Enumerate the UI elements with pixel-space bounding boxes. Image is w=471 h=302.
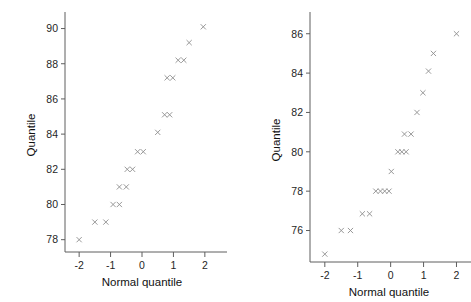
data-point-marker <box>201 24 206 29</box>
data-point-marker <box>165 75 170 80</box>
data-point-marker <box>322 252 327 257</box>
data-point-marker <box>431 51 436 56</box>
data-point-marker <box>162 112 167 117</box>
scatter-plot-left: 78808284868890-2-1012Normal quantileQuan… <box>0 0 240 302</box>
data-point-marker <box>110 202 115 207</box>
y-tick-label: 88 <box>46 58 58 70</box>
data-point-marker <box>124 184 129 189</box>
data-point-marker <box>117 202 122 207</box>
x-tick-label: -1 <box>106 259 115 271</box>
data-point-marker <box>454 31 459 36</box>
scatter-panel-right: 767880828486-2-1012Normal quantileQuanti… <box>231 0 471 302</box>
data-point-marker <box>348 228 353 233</box>
x-tick-label: 1 <box>421 269 427 281</box>
data-point-marker <box>378 189 383 194</box>
x-tick-label: 1 <box>171 259 177 271</box>
y-tick-label: 84 <box>46 128 58 140</box>
y-tick-label: 80 <box>291 146 303 158</box>
data-point-marker <box>103 219 108 224</box>
y-tick-label: 80 <box>46 198 58 210</box>
data-point-marker <box>339 228 344 233</box>
data-point-marker <box>414 110 419 115</box>
x-axis-title: Normal quantile <box>349 286 430 298</box>
y-tick-label: 76 <box>291 224 303 236</box>
x-tick-label: -2 <box>320 269 329 281</box>
y-tick-label: 82 <box>46 163 58 175</box>
x-tick-label: 2 <box>454 269 460 281</box>
data-point-marker <box>155 130 160 135</box>
data-point-marker <box>130 167 135 172</box>
data-point-marker <box>408 131 413 136</box>
x-tick-label: 0 <box>388 269 394 281</box>
data-point-marker <box>399 149 404 154</box>
data-point-marker <box>404 149 409 154</box>
data-point-group <box>322 31 459 257</box>
data-point-marker <box>402 131 407 136</box>
data-point-marker <box>176 58 181 63</box>
scatter-panel-left: 78808284868890-2-1012Normal quantileQuan… <box>0 0 240 302</box>
data-point-marker <box>367 211 372 216</box>
data-point-marker <box>426 69 431 74</box>
data-point-marker <box>77 237 82 242</box>
data-point-marker <box>360 211 365 216</box>
x-tick-label: 2 <box>202 259 208 271</box>
y-axis-title: Quantile <box>25 114 37 157</box>
y-tick-label: 86 <box>291 28 303 40</box>
y-axis-title: Quantile <box>270 119 282 162</box>
y-tick-label: 90 <box>46 22 58 34</box>
x-axis-title: Normal quantile <box>102 276 183 288</box>
x-tick-label: -2 <box>74 259 83 271</box>
data-point-marker <box>170 75 175 80</box>
data-point-marker <box>167 112 172 117</box>
data-point-marker <box>135 149 140 154</box>
scatter-plot-right: 767880828486-2-1012Normal quantileQuanti… <box>231 0 471 302</box>
y-tick-label: 78 <box>291 185 303 197</box>
qq-plot-figure: 78808284868890-2-1012Normal quantileQuan… <box>0 0 471 302</box>
data-point-marker <box>141 149 146 154</box>
data-point-marker <box>117 184 122 189</box>
data-point-marker <box>187 40 192 45</box>
x-tick-label: 0 <box>139 259 145 271</box>
data-point-marker <box>389 169 394 174</box>
data-point-marker <box>373 189 378 194</box>
y-tick-label: 78 <box>46 233 58 245</box>
data-point-marker <box>386 189 391 194</box>
data-point-marker <box>181 58 186 63</box>
data-point-marker <box>382 189 387 194</box>
x-tick-label: -1 <box>353 269 362 281</box>
data-point-marker <box>125 167 130 172</box>
data-point-marker <box>92 219 97 224</box>
y-tick-label: 84 <box>291 67 303 79</box>
data-point-group <box>77 24 206 242</box>
y-tick-label: 82 <box>291 106 303 118</box>
data-point-marker <box>420 90 425 95</box>
y-tick-label: 86 <box>46 93 58 105</box>
